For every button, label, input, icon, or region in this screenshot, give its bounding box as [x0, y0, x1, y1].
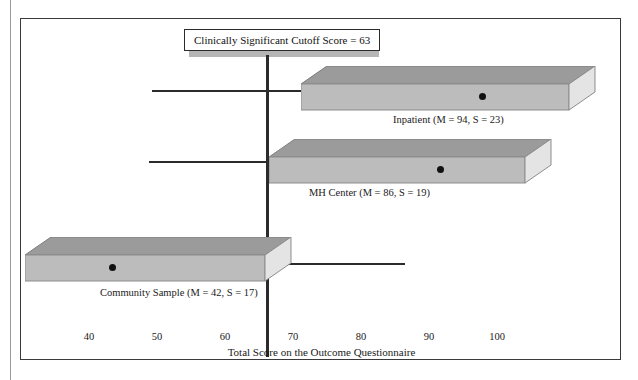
- leader-line-inpatient: [152, 90, 302, 92]
- bar-inpatient-3d-shape: [301, 66, 621, 111]
- bar-community: [25, 237, 305, 282]
- cutoff-callout-text: Clinically Significant Cutoff Score = 63: [194, 34, 370, 46]
- bar-inpatient-label: Inpatient (M = 94, S = 23): [393, 114, 504, 125]
- axis-tick-50: 50: [137, 331, 177, 342]
- axis-tick-70: 70: [273, 331, 313, 342]
- bar-mhcenter: [269, 139, 569, 184]
- axis-tick-100: 100: [477, 331, 517, 342]
- axis-tick-40: 40: [69, 331, 109, 342]
- bar-community-mean-marker: [109, 264, 116, 271]
- bar-mhcenter-mean-marker: [437, 166, 444, 173]
- bar-inpatient-mean-marker: [479, 93, 486, 100]
- chart-frame: Clinically Significant Cutoff Score = 63…: [20, 18, 621, 360]
- axis-tick-80: 80: [341, 331, 381, 342]
- axis-title: Total Score on the Outcome Questionnaire: [21, 346, 622, 358]
- bar-inpatient: [301, 66, 621, 111]
- axis-tick-60: 60: [205, 331, 245, 342]
- plot-area: Clinically Significant Cutoff Score = 63…: [21, 19, 622, 361]
- bar-mhcenter-3d-shape: [269, 139, 569, 184]
- cutoff-reference-line: [266, 55, 269, 357]
- axis-tick-90: 90: [409, 331, 449, 342]
- bar-community-label: Community Sample (M = 42, S = 17): [100, 287, 258, 298]
- cutoff-callout-box: Clinically Significant Cutoff Score = 63: [184, 29, 380, 51]
- bar-community-3d-shape: [25, 237, 305, 282]
- bar-mhcenter-label: MH Center (M = 86, S = 19): [309, 187, 430, 198]
- page-edge-rule: [10, 0, 11, 380]
